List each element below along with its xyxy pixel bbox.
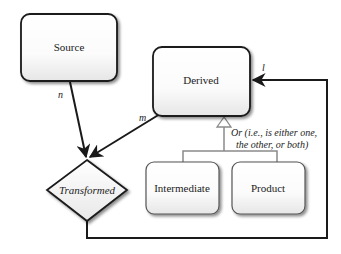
edge-derived-to-transformed — [90, 114, 160, 157]
generalization-triangle-icon — [217, 117, 231, 127]
edge-label-l: l — [262, 62, 265, 73]
node-product-label: Product — [251, 182, 285, 194]
edge-source-to-transformed — [70, 82, 86, 157]
generalization-note-line2: the other, or both) — [236, 139, 309, 151]
node-derived-label: Derived — [183, 74, 219, 86]
diagram-canvas: Source Derived Transformed Intermediate … — [0, 0, 341, 254]
node-source[interactable]: Source — [21, 14, 117, 81]
edge-label-m: m — [139, 112, 146, 123]
node-transformed-label: Transformed — [59, 184, 116, 196]
node-intermediate[interactable]: Intermediate — [146, 162, 219, 214]
node-product[interactable]: Product — [232, 162, 305, 214]
generalization-note-line1: Or (i.e., is either one, — [231, 127, 317, 139]
node-intermediate-label: Intermediate — [154, 182, 210, 194]
node-derived[interactable]: Derived — [153, 47, 250, 116]
node-transformed[interactable]: Transformed — [47, 160, 127, 221]
node-source-label: Source — [54, 41, 85, 53]
edge-label-n: n — [58, 89, 63, 100]
